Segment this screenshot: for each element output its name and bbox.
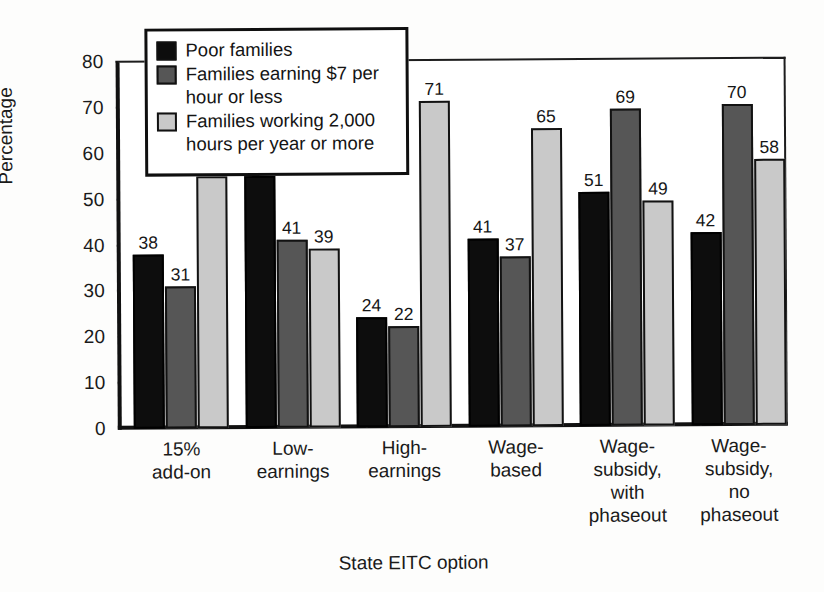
bar — [530, 128, 563, 426]
y-tick-label: 50 — [58, 189, 104, 211]
legend-swatch-full-time-icon — [157, 112, 177, 131]
bar-value-label: 71 — [424, 79, 444, 100]
bar — [133, 254, 165, 428]
bar — [308, 249, 340, 428]
bar — [165, 286, 197, 428]
bar — [499, 257, 531, 427]
bar-value-label: 41 — [282, 218, 302, 239]
y-tick-label: 20 — [59, 326, 105, 348]
y-tick-label: 80 — [57, 51, 103, 73]
y-tick-label: 30 — [59, 280, 105, 302]
bar — [244, 176, 277, 428]
bar-value-label: 24 — [362, 295, 382, 316]
bar-value-label: 41 — [473, 216, 493, 237]
y-tick-label: 0 — [60, 418, 106, 440]
x-tick-label: 15% add-on — [152, 437, 211, 483]
bar — [276, 240, 308, 428]
x-tick-label: Wage- subsidy, with phaseout — [588, 434, 667, 526]
bar-value-label: 37 — [505, 235, 525, 256]
bar-value-label: 49 — [648, 179, 668, 200]
y-tick-label: 40 — [59, 234, 105, 256]
bar-value-label: 65 — [536, 106, 556, 127]
x-tick-label: Wage- subsidy, no phaseout — [700, 434, 779, 526]
bar — [196, 176, 229, 428]
legend-swatch-poor-families-icon — [156, 41, 176, 60]
bar-value-label: 31 — [171, 264, 191, 285]
bar-value-label: 38 — [138, 232, 158, 253]
bar — [388, 326, 420, 427]
legend-label: Poor families — [185, 38, 292, 62]
bar — [356, 317, 388, 427]
y-tick-label: 60 — [58, 143, 104, 165]
y-tick-label: 10 — [59, 372, 105, 394]
bar-chart: Percentage 01020304050607080 38315555413… — [0, 0, 824, 592]
bar-value-label: 70 — [727, 82, 747, 103]
legend-swatch-low-wage-icon — [157, 65, 177, 84]
bar — [419, 101, 452, 427]
bar-value-label: 22 — [394, 304, 414, 325]
bar — [721, 104, 754, 425]
legend-label: Families earning $7 per hour or less — [186, 61, 398, 108]
bar-value-label: 39 — [314, 227, 334, 248]
bar-value-label: 58 — [759, 137, 779, 158]
y-axis-ticks: 01020304050607080 — [0, 0, 822, 3]
x-axis-title: State EITC option — [2, 549, 824, 576]
bar — [610, 109, 643, 426]
y-tick-label: 70 — [58, 97, 104, 119]
legend-label: Families working 2,000 hours per year or… — [186, 108, 398, 155]
legend-item: Families earning $7 per hour or less — [157, 61, 398, 108]
bar — [642, 201, 674, 426]
legend: Poor families Families earning $7 per ho… — [144, 27, 409, 177]
bar-value-label: 69 — [615, 87, 635, 108]
bar — [690, 232, 722, 425]
x-tick-label: Wage- based — [488, 435, 544, 481]
y-axis-title: Percentage — [0, 87, 17, 184]
bar — [754, 159, 787, 425]
bar — [467, 238, 499, 426]
legend-item: Families working 2,000 hours per year or… — [157, 108, 398, 155]
bar — [578, 192, 610, 426]
legend-item: Poor families — [156, 37, 397, 61]
bar-value-label: 51 — [584, 170, 604, 191]
x-tick-label: Low- earnings — [256, 437, 329, 483]
bar-value-label: 42 — [696, 210, 716, 231]
x-axis-categories: 15% add-onLow- earningsHigh- earningsWag… — [0, 0, 822, 3]
x-tick-label: High- earnings — [368, 436, 441, 482]
